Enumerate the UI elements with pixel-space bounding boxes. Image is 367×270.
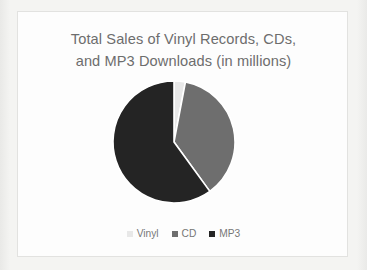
screenshot-canvas: Total Sales of Vinyl Records, CDs, and M… [0,0,367,270]
pie-chart [110,78,238,206]
legend-swatch-icon-mp3 [209,231,215,237]
legend-label: Vinyl [137,228,159,240]
legend-swatch-icon-cd [172,231,178,237]
legend-swatch-icon-vinyl [127,231,133,237]
chart-card: Total Sales of Vinyl Records, CDs, and M… [17,11,348,257]
pie-slices [113,81,235,203]
legend-label: MP3 [219,228,240,240]
legend-item-cd[interactable]: CD [172,228,197,240]
chart-legend: VinylCDMP3 [18,228,349,240]
legend-item-mp3[interactable]: MP3 [209,228,240,240]
legend-item-vinyl[interactable]: Vinyl [127,228,159,240]
legend-label: CD [182,228,197,240]
plot-area [18,12,349,258]
